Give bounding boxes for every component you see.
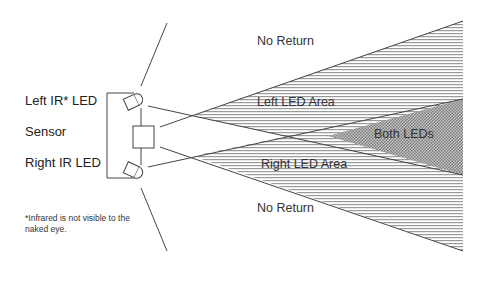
left-led-area-label: Left LED Area	[257, 95, 335, 109]
sensor-label: Sensor	[25, 124, 66, 139]
footnote-line-1: *Infrared is not visible to the	[25, 213, 175, 224]
footnote-line-2: naked eye.	[25, 224, 175, 235]
left-led-icon	[123, 92, 144, 110]
no-return-top-label: No Return	[257, 34, 314, 48]
sensor-box	[133, 126, 154, 148]
left-led-label: Left IR* LED	[25, 93, 97, 108]
led-sensor-diagram	[0, 0, 489, 282]
footnote: *Infrared is not visible to the naked ey…	[25, 213, 175, 235]
right-led-area-label: Right LED Area	[261, 157, 347, 171]
right-led-label: Right IR LED	[25, 155, 101, 170]
both-leds-label: Both LEDs	[374, 127, 434, 141]
no-return-bottom-label: No Return	[257, 201, 314, 215]
